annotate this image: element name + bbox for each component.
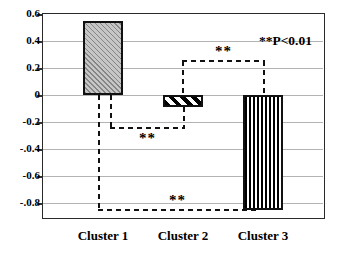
bar-cluster-3 xyxy=(243,95,283,210)
bracket-1-vertical-0 xyxy=(182,61,184,95)
y-tick-label-0.6: 0.6 xyxy=(0,7,40,20)
x-label-cluster-2: Cluster 2 xyxy=(141,228,225,244)
bracket-2-horizontal xyxy=(98,209,257,211)
significance-stars-1: ** xyxy=(209,44,239,59)
x-label-cluster-3: Cluster 3 xyxy=(221,228,305,244)
significance-stars-0: ** xyxy=(133,131,163,146)
y-tick-label-0.4: 0.4 xyxy=(0,34,40,47)
y-tick-label-0.2: 0.2 xyxy=(0,61,40,74)
y-tick-label-0: 0 xyxy=(0,88,40,101)
x-label-cluster-1: Cluster 1 xyxy=(61,228,145,244)
bracket-0-horizontal xyxy=(110,127,185,129)
significance-bar-chart-figure: ****** 0.60.40.20-0.2-.0.4-0.6-.0.8Clust… xyxy=(0,0,339,255)
bracket-0-vertical-0 xyxy=(110,95,112,127)
bracket-2-vertical-0 xyxy=(98,95,100,210)
bar-cluster-1 xyxy=(83,21,123,95)
y-tick-label--.0.8: -.0.8 xyxy=(0,196,40,209)
bar-cluster-2 xyxy=(163,95,203,107)
y-tick-label--0.6: -0.6 xyxy=(0,169,40,182)
significance-stars-2: ** xyxy=(163,193,193,208)
bracket-1-vertical-1 xyxy=(263,61,265,95)
bracket-0-vertical-1 xyxy=(183,107,185,127)
y-tick-label--.0.4: -.0.4 xyxy=(0,142,40,155)
significance-note: **P<0.01 xyxy=(259,33,312,49)
bracket-1-horizontal xyxy=(182,60,265,62)
y-tick-label--0.2: -0.2 xyxy=(0,115,40,128)
